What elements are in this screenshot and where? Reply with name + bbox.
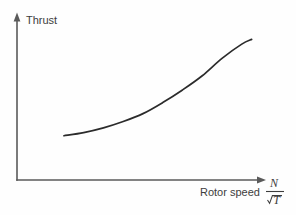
x-axis-arrowhead-icon <box>257 176 266 183</box>
y-axis-label: Thrust <box>26 14 57 26</box>
chart-canvas: Thrust Rotor speed N T <box>0 0 296 215</box>
x-axis-fraction-symbol: N T <box>266 176 284 207</box>
thrust-vs-rotor-speed-figure: Thrust Rotor speed N T <box>0 0 296 215</box>
x-axis-label: Rotor speed <box>200 186 260 198</box>
y-axis-arrowhead-icon <box>14 13 21 22</box>
fraction-numerator: N <box>269 176 279 190</box>
thrust-curve <box>64 39 252 135</box>
